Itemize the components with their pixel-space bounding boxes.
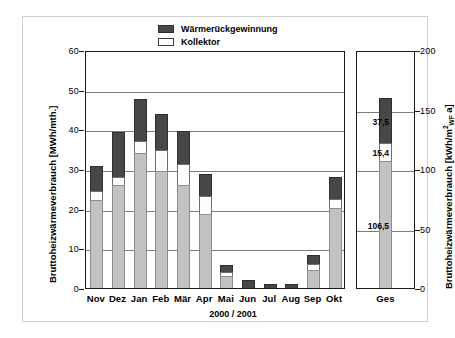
y-axis-right-title-sup: 2 — [442, 125, 449, 129]
bar-jul — [264, 284, 277, 288]
y-tick-right: 200 — [420, 46, 454, 56]
segment-gas — [155, 171, 168, 288]
tick-mark — [415, 111, 420, 112]
total-label-gas: 106,5 — [359, 221, 389, 231]
x-axis-title: 2000 / 2001 — [173, 309, 293, 319]
bar-ges — [379, 98, 392, 288]
total-label-kollektor: 15,4 — [359, 148, 389, 158]
tick-mark — [415, 289, 420, 290]
bar-jan — [134, 99, 147, 288]
y-axis-right-title-sub: WF — [448, 115, 455, 125]
y-tick-right: 100 — [420, 165, 454, 175]
tick-mark — [415, 170, 420, 171]
segment-gas — [220, 276, 233, 288]
segment-kollektor — [134, 141, 147, 153]
bar-aug — [285, 284, 298, 288]
segment-gas — [329, 208, 342, 288]
tick-mark — [79, 51, 84, 52]
segment-gas — [177, 185, 190, 288]
legend-item-kollektor: Kollektor — [158, 36, 278, 48]
segment-kollektor — [329, 199, 342, 208]
white-swatch-icon — [158, 38, 174, 46]
y-tick-right: 150 — [420, 106, 454, 116]
bar-dez — [112, 132, 125, 288]
segment-gas — [307, 270, 320, 288]
y-tick-left: 20 — [45, 205, 79, 215]
figure-frame: Wärmerückgewinnung Kollektor Gas Bruttoh… — [22, 16, 428, 322]
y-tick-left: 10 — [45, 244, 79, 254]
segment-waermerueckgewinnung — [307, 255, 320, 265]
y-tick-left: 40 — [45, 125, 79, 135]
segment-kollektor — [177, 164, 190, 185]
tick-mark — [79, 210, 84, 211]
segment-waermerueckgewinnung — [264, 284, 277, 288]
segment-kollektor — [199, 196, 212, 215]
bar-mai — [220, 265, 233, 288]
tick-mark — [79, 91, 84, 92]
x-label-okt: Okt — [316, 293, 352, 304]
segment-waermerueckgewinnung — [90, 166, 103, 191]
tick-mark — [79, 249, 84, 250]
tick-mark — [79, 130, 84, 131]
x-label-ges: Ges — [368, 293, 404, 304]
bar-feb — [155, 114, 168, 289]
y-axis-right-title-prefix: Bruttoheizwärmeverbrauch [kWh/m — [443, 129, 454, 289]
segment-waermerueckgewinnung — [199, 174, 212, 195]
segment-waermerueckgewinnung — [329, 177, 342, 199]
bar-nov — [90, 166, 103, 288]
bar-sep — [307, 255, 320, 288]
bar-mär — [177, 131, 190, 288]
segment-waermerueckgewinnung — [155, 114, 168, 151]
legend-label: Wärmerückgewinnung — [181, 24, 278, 34]
segment-waermerueckgewinnung — [177, 131, 190, 164]
bar-okt — [329, 177, 342, 288]
y-tick-right: 0 — [420, 284, 454, 294]
y-tick-left: 30 — [45, 165, 79, 175]
y-tick-left: 0 — [45, 284, 79, 294]
bar-jun — [242, 280, 255, 288]
segment-gas — [90, 200, 103, 288]
monthly-plot-area — [85, 51, 345, 289]
y-tick-right: 50 — [420, 225, 454, 235]
segment-kollektor — [90, 191, 103, 200]
bar-apr — [199, 174, 212, 288]
total-label-wärmerückgewinnung: 37,5 — [359, 117, 389, 127]
tick-mark — [415, 51, 420, 52]
gridline — [86, 92, 344, 93]
segment-waermerueckgewinnung — [134, 99, 147, 141]
segment-gas — [199, 214, 212, 288]
tick-mark — [79, 289, 84, 290]
segment-waermerueckgewinnung — [112, 132, 125, 177]
segment-waermerueckgewinnung — [285, 284, 298, 288]
segment-gas — [134, 153, 147, 288]
y-axis-right-title: Bruttoheizwärmeverbrauch [kWh/m2WF a] — [443, 104, 454, 289]
y-tick-left: 60 — [45, 46, 79, 56]
dark-gray-swatch-icon — [158, 25, 174, 33]
total-plot-area — [356, 51, 415, 289]
y-tick-left: 50 — [45, 86, 79, 96]
tick-mark — [415, 230, 420, 231]
segment-gas — [112, 185, 125, 288]
tick-mark — [79, 170, 84, 171]
legend-item-waermerueckgewinnung: Wärmerückgewinnung — [158, 23, 278, 35]
legend-label: Kollektor — [181, 37, 220, 47]
segment-kollektor — [155, 150, 168, 170]
segment-waermerueckgewinnung — [242, 280, 255, 288]
segment-kollektor — [112, 177, 125, 185]
